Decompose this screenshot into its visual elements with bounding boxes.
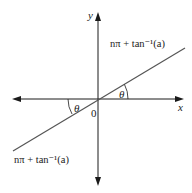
y-axis-up-arrow-icon (95, 12, 101, 21)
origin-label: 0 (91, 107, 97, 119)
right-angle-arc (125, 85, 129, 100)
left-angle-label: θ (74, 102, 80, 114)
x-axis-left-arrow-icon (12, 96, 21, 102)
diagram-canvas: y x 0 θ θ nπ + tan⁻¹(a) nπ + tan⁻¹(a) (0, 0, 192, 193)
y-axis-label: y (87, 9, 93, 21)
y-axis-down-arrow-icon (95, 177, 101, 186)
left-angle-arc (68, 99, 72, 114)
x-axis-label: x (177, 101, 183, 113)
upper-line-label: nπ + tan⁻¹(a) (110, 38, 165, 50)
lower-line-label: nπ + tan⁻¹(a) (14, 154, 69, 166)
right-angle-label: θ (119, 88, 125, 100)
